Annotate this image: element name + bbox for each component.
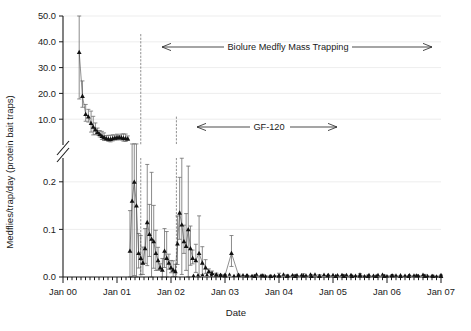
gf120-label: GF-120	[253, 122, 284, 132]
x-tick-label: Jan 00	[49, 287, 77, 297]
x-axis-title: Date	[226, 307, 246, 318]
x-tick-label: Jan 05	[319, 287, 347, 297]
y-tick-label-upper: 30.0	[38, 63, 56, 73]
medfly-trap-chart: 10.020.030.040.050.0 0.00.10.2 Jan 00Jan…	[0, 0, 471, 331]
y-tick-label-upper: 40.0	[38, 37, 56, 47]
chart-svg: 10.020.030.040.050.0 0.00.10.2 Jan 00Jan…	[0, 0, 471, 331]
y-tick-label-upper: 10.0	[38, 115, 56, 125]
x-tick-label: Jan 03	[211, 287, 239, 297]
y-tick-label-lower: 0.1	[43, 225, 56, 235]
y-tick-label-lower: 0.2	[43, 177, 56, 187]
x-tick-label: Jan 07	[427, 287, 455, 297]
y-tick-label-upper: 50.0	[38, 11, 56, 21]
x-tick-label: Jan 06	[373, 287, 401, 297]
y-axis-title: Medflies/trap/day (protein bait traps)	[4, 95, 15, 249]
x-tick-label: Jan 01	[103, 287, 131, 297]
x-tick-label: Jan 02	[157, 287, 185, 297]
biolure-label: Biolure Medfly Mass Trapping	[227, 42, 348, 52]
y-tick-label-lower: 0.0	[43, 272, 56, 282]
x-tick-label: Jan 04	[265, 287, 293, 297]
y-tick-label-upper: 20.0	[38, 89, 56, 99]
